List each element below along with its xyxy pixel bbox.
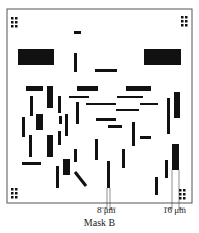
mask-feature bbox=[22, 117, 25, 137]
alignment-mark-bottom-left bbox=[11, 188, 18, 199]
mask-feature bbox=[167, 98, 170, 134]
mask-feature bbox=[74, 53, 77, 72]
mask-feature bbox=[172, 144, 179, 170]
mask-frame bbox=[7, 9, 192, 203]
mask-feature bbox=[18, 49, 54, 65]
mask-feature bbox=[96, 118, 116, 121]
mask-feature bbox=[36, 114, 43, 130]
mask-feature bbox=[122, 149, 125, 168]
mask-feature bbox=[108, 125, 122, 128]
mask-feature bbox=[95, 139, 98, 160]
mask-feature bbox=[140, 136, 151, 139]
mask-feature bbox=[65, 114, 68, 136]
alignment-marks bbox=[11, 16, 188, 200]
mask-feature bbox=[26, 86, 43, 91]
mask-feature bbox=[132, 122, 135, 146]
mask-feature bbox=[140, 103, 158, 105]
mask-feature bbox=[76, 102, 79, 124]
mask-feature bbox=[117, 96, 143, 98]
mask-feature bbox=[69, 96, 89, 98]
dimension-lines bbox=[101, 170, 185, 210]
figure-caption: Mask B bbox=[0, 217, 199, 228]
mask-feature bbox=[74, 149, 77, 162]
mask-feature bbox=[165, 160, 168, 178]
mask-feature bbox=[47, 135, 53, 157]
mask-feature bbox=[126, 86, 151, 91]
diagonal-feature bbox=[75, 172, 86, 186]
mask-feature bbox=[29, 135, 32, 157]
mask-feature bbox=[86, 103, 116, 105]
mask-feature bbox=[174, 92, 180, 118]
mask-feature bbox=[144, 49, 181, 65]
mask-feature bbox=[58, 96, 61, 113]
mask-feature bbox=[116, 109, 139, 111]
alignment-mark-top-left bbox=[11, 17, 18, 28]
mask-feature bbox=[74, 31, 81, 34]
mask-feature bbox=[59, 116, 62, 124]
alignment-mark-top-right bbox=[181, 16, 188, 27]
mask-feature bbox=[95, 69, 117, 72]
mask-features bbox=[18, 31, 181, 195]
mask-feature bbox=[30, 96, 33, 116]
mask-diagram bbox=[0, 0, 199, 233]
mask-feature bbox=[155, 177, 158, 195]
mask-feature bbox=[77, 86, 98, 91]
mask-feature bbox=[63, 159, 70, 175]
mask-feature bbox=[22, 162, 41, 165]
mask-feature bbox=[58, 131, 61, 145]
alignment-mark-bottom-right bbox=[179, 189, 186, 200]
mask-feature bbox=[56, 166, 59, 188]
mask-feature bbox=[47, 86, 53, 108]
dimension-label-16um: 16 μm bbox=[163, 205, 186, 215]
mask-feature bbox=[107, 161, 110, 188]
dimension-label-8um: 8 μm bbox=[97, 205, 116, 215]
